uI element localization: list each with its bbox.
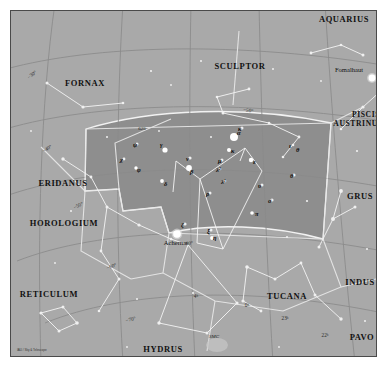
greek-star-label: φ xyxy=(137,166,141,173)
greek-star-label: α xyxy=(237,129,241,136)
greek-star-label: ν xyxy=(186,155,189,162)
greek-star-label: π xyxy=(255,210,259,217)
credit-text: IAU / Sky & Telescope xyxy=(17,348,47,352)
constellation-label: PAVO xyxy=(350,332,375,342)
star-chart-frame: γνβδψχφκακμλ²λ¹ειθυρσπζξηθ −30°−40°−50°−… xyxy=(10,10,377,357)
constellation-label: AQUARIUS xyxy=(319,14,369,24)
greek-star-label: γ xyxy=(160,141,163,148)
constellation-label: FORNAX xyxy=(65,78,105,88)
deep-sky-label: 625 xyxy=(138,126,146,131)
constellation-label: PISCIS xyxy=(352,110,376,119)
constellation-label: INDUS xyxy=(345,277,374,287)
greek-star-label: ψ xyxy=(133,141,138,148)
greek-star-label: μ xyxy=(217,157,222,164)
greek-star-label: ζ xyxy=(181,221,184,229)
star-dot xyxy=(188,156,191,159)
greek-star-label: ε xyxy=(253,158,256,165)
star-dot xyxy=(123,158,126,161)
grid-label: 4ʰ xyxy=(194,293,199,299)
greek-star-label: ξ xyxy=(207,227,210,235)
grid-label: 0ʰ xyxy=(245,302,250,308)
constellation-label: HYDRUS xyxy=(143,344,183,354)
deep-sky-label: SMC xyxy=(209,334,220,339)
named-star-label: Fomalhaut xyxy=(335,66,363,73)
greek-star-label: σ xyxy=(268,197,272,204)
greek-star-label: ρ xyxy=(205,190,210,197)
star-dot xyxy=(210,229,213,232)
star-dot xyxy=(292,144,295,147)
greek-star-label: λ¹ xyxy=(220,178,226,185)
named-star-label: Achernar xyxy=(164,239,189,246)
constellation-label: GRUS xyxy=(347,191,373,201)
greek-star-label: η xyxy=(213,234,217,241)
constellation-label: TUCANA xyxy=(267,291,307,301)
constellation-label: SCULPTOR xyxy=(215,61,266,71)
star-dot xyxy=(250,211,254,215)
greek-star-label: ι xyxy=(289,142,291,149)
constellation-label: RETICULUM xyxy=(20,289,78,299)
greek-star-label: β xyxy=(189,168,194,175)
bright-star-dot xyxy=(369,75,376,82)
greek-star-label: υ xyxy=(258,182,261,189)
sky-map-svg: γνβδψχφκακμλ²λ¹ειθυρσπζξηθ −30°−40°−50°−… xyxy=(11,11,376,356)
small-magellanic-cloud xyxy=(206,338,228,352)
constellation-label: AUSTRINUS xyxy=(333,119,376,128)
constellation-label: HOROLOGIUM xyxy=(30,218,98,228)
star-dot xyxy=(162,147,167,152)
constellation-label: ERIDANUS xyxy=(38,178,87,188)
grid-label: 23ʰ xyxy=(282,315,289,321)
bright-star-dot xyxy=(173,230,181,238)
star-dot xyxy=(183,222,186,225)
grid-label: 22ʰ xyxy=(322,332,329,338)
sky-background: γνβδψχφκακμλ²λ¹ειθυρσπζξηθ −30°−40°−50°−… xyxy=(11,11,376,356)
